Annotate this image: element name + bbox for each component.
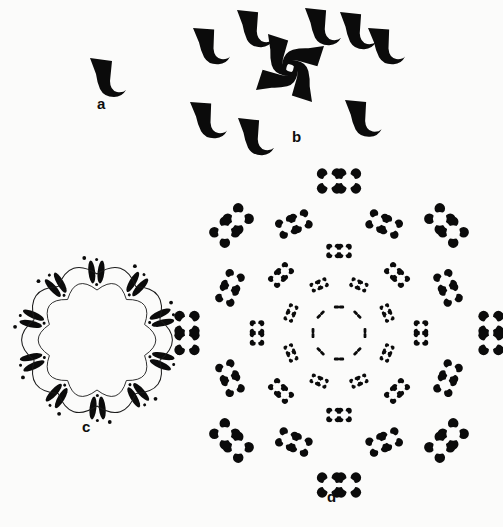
rosette-pair: [312, 328, 315, 338]
rosette-pair: [250, 320, 265, 346]
rosette-pair: [316, 347, 325, 356]
rosette: [326, 408, 341, 423]
ring-unit: [122, 378, 153, 411]
ring-unit: [87, 258, 105, 286]
rosette-pair: [274, 426, 314, 458]
rosette-pair: [364, 426, 404, 458]
ring-decamer: [13, 256, 181, 424]
rosette-pair: [317, 472, 361, 497]
rosette-pair: [326, 408, 352, 423]
rosette-pair: [353, 310, 362, 319]
rosette-pair: [364, 208, 404, 240]
rosette-pair: [309, 373, 330, 389]
rosette-pair: [414, 320, 429, 346]
rosette-pair: [432, 358, 464, 398]
rosette: [337, 244, 352, 259]
rosette: [174, 311, 199, 336]
rosette-pair: [207, 416, 256, 465]
rosette-pair: [316, 310, 325, 319]
rosette: [250, 320, 265, 335]
rosette-pair: [364, 328, 367, 338]
rosette: [478, 330, 503, 355]
rosette-pair: [383, 377, 411, 405]
rosette-pair: [283, 343, 299, 364]
rosette-pair: [326, 244, 352, 259]
rosette: [336, 168, 361, 193]
panel-label-b: b: [292, 129, 301, 144]
ring-unit: [41, 269, 72, 302]
rosette-pair: [422, 201, 471, 250]
panel-d: [175, 165, 503, 515]
rosette-pair: [379, 343, 395, 364]
rosette-pair: [349, 373, 370, 389]
panel-b: [185, 0, 395, 170]
rosette-pair: [267, 261, 295, 289]
rosette-pair: [334, 358, 344, 361]
rosette-pair: [174, 311, 199, 355]
ring-unit: [88, 394, 106, 422]
rosette-pair: [379, 303, 395, 324]
panel-label-a: a: [97, 96, 105, 111]
rosette-pair: [214, 358, 246, 398]
panel-label-c: c: [82, 419, 90, 434]
rosette-pair: [432, 268, 464, 308]
rosette-pair: [283, 303, 299, 324]
rosette-pair: [214, 268, 246, 308]
rosette-pair: [478, 311, 503, 355]
rosette-pair: [334, 306, 344, 309]
motif-single: [90, 58, 126, 97]
rosette-pair: [207, 201, 256, 250]
rosette-pair: [349, 277, 370, 293]
figure-canvas: a: [0, 0, 503, 527]
rosette-pair: [309, 277, 330, 293]
rosette: [414, 331, 429, 346]
rosette-pair: [353, 347, 362, 356]
panel-a: [60, 40, 180, 130]
rosette-pair: [274, 208, 314, 240]
rosette-pair: [267, 377, 295, 405]
rosette-pair: [383, 261, 411, 289]
rosette-pair: [317, 168, 361, 193]
panel-c: [5, 245, 195, 455]
rosette-pair: [422, 416, 471, 465]
rosette-lattice: [174, 168, 503, 497]
panel-label-d: d: [327, 489, 336, 504]
